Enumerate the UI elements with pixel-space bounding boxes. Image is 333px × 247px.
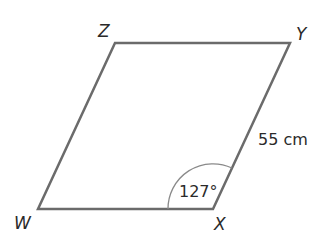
side-length-label: 55 cm [258, 130, 308, 149]
parallelogram-diagram: Z Y W X 55 cm 127° [0, 0, 333, 247]
vertex-label-w: W [14, 213, 32, 233]
parallelogram-wxyz [38, 43, 290, 209]
vertex-label-x: X [213, 214, 226, 234]
angle-label: 127° [179, 182, 218, 201]
vertex-label-y: Y [296, 24, 308, 44]
vertex-label-z: Z [97, 21, 110, 41]
